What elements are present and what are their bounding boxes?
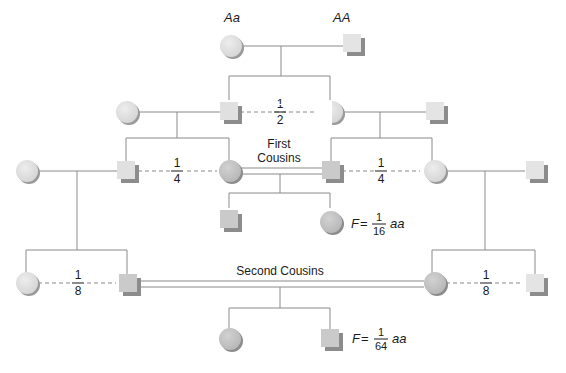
second-cousin-son-square: [321, 329, 343, 351]
gen2-left-son-square: [220, 102, 242, 124]
first-cousins-label-line2: Cousins: [257, 151, 300, 165]
svg-text:4: 4: [174, 172, 181, 186]
first-cousin-daughter-circle: [320, 211, 344, 235]
probability-eighth-left: 1 8: [71, 268, 85, 298]
inbreeding-coefficient-first-cousins: F = 1 16 aa: [351, 211, 404, 237]
svg-text:F: F: [352, 331, 361, 346]
first-cousin-male-square: [322, 161, 344, 183]
gen4-right-spouse-male: [526, 274, 548, 296]
gen4-left-spouse-female: [16, 272, 40, 296]
probability-eighth-right: 1 8: [479, 268, 493, 298]
pedigree-diagram: Aa AA 1 2 1 4 1 4 First Cousins F = 1 16…: [0, 0, 566, 373]
svg-text:1: 1: [75, 268, 82, 282]
svg-text:1: 1: [174, 156, 181, 170]
second-cousin-female-circle: [424, 272, 448, 296]
inbreeding-coefficient-second-cousins: F = 1 64 aa: [352, 326, 406, 352]
svg-text:16: 16: [373, 225, 385, 237]
gen3-left-outer-spouse-female: [16, 160, 40, 184]
second-cousin-daughter-circle: [219, 328, 243, 352]
svg-text:4: 4: [378, 172, 385, 186]
svg-text:1: 1: [378, 326, 384, 338]
first-cousin-son-square: [220, 210, 242, 232]
gen3-right-outer-spouse-male: [526, 161, 548, 183]
svg-text:1: 1: [483, 268, 490, 282]
second-cousin-male-square: [119, 274, 141, 296]
gen3-right-daughter-circle: [424, 160, 448, 184]
founder-male-square: [343, 34, 365, 56]
first-cousin-female-circle: [219, 160, 243, 184]
probability-quarter-left: 1 4: [170, 156, 184, 186]
founder-genotype-aa-het: Aa: [223, 10, 240, 25]
probability-quarter-right: 1 4: [374, 156, 388, 186]
gen2-right-spouse-male: [426, 102, 448, 124]
second-cousins-label: Second Cousins: [236, 264, 323, 278]
gen3-left-son-square: [117, 161, 139, 183]
svg-text:aa: aa: [392, 331, 406, 346]
gen2-left-spouse-female: [116, 101, 140, 125]
svg-text:aa: aa: [390, 216, 404, 231]
founder-genotype-aa-hom: AA: [332, 10, 350, 25]
founder-female-circle: [220, 35, 244, 59]
svg-text:1: 1: [378, 156, 385, 170]
first-cousins-label-line1: First: [267, 137, 291, 151]
svg-text:8: 8: [75, 284, 82, 298]
svg-text:1: 1: [376, 211, 382, 223]
svg-text:F: F: [351, 216, 360, 231]
svg-text:2: 2: [277, 113, 284, 127]
pedigree-lines: [26, 46, 535, 330]
svg-text:=: =: [360, 216, 368, 231]
svg-text:8: 8: [483, 284, 490, 298]
svg-text:64: 64: [375, 340, 387, 352]
svg-text:=: =: [361, 331, 369, 346]
